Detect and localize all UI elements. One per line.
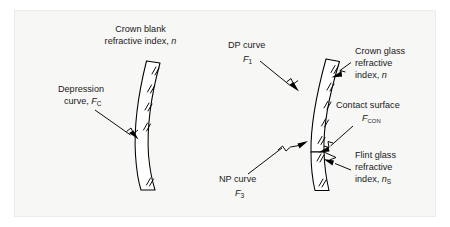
np-curve-leader-zigzag xyxy=(278,146,291,151)
depression-curve-label-line1: Depression xyxy=(58,84,104,94)
contact-surface-edge-detail xyxy=(324,152,336,160)
contact-surface-label-symbol: FCON xyxy=(362,113,381,124)
contact-surface-subscript: CON xyxy=(368,118,381,124)
contact-surface-leader xyxy=(331,126,354,146)
flint-glass-leader xyxy=(335,164,351,171)
np-curve-subscript: 3 xyxy=(241,192,245,199)
flint-glass-label-line2: refractive xyxy=(355,162,392,172)
depression-curve-subscript: C xyxy=(97,100,102,107)
dp-curve-arrowhead xyxy=(289,82,299,92)
crown-glass-leader xyxy=(340,63,351,71)
flint-glass-label-line3: index, nS xyxy=(355,174,392,185)
dp-curve-leader xyxy=(260,61,290,85)
crown-blank-label-line1: Crown blank xyxy=(115,24,166,34)
dp-curve-label-symbol: F1 xyxy=(243,54,253,65)
crown-blank-label-line2: refractive index, n xyxy=(105,36,177,46)
np-curve-label-symbol: F3 xyxy=(235,188,245,199)
dp-curve-subscript: 1 xyxy=(249,58,253,65)
crown-blank-group: Crown blank refractive index, n Depressi… xyxy=(58,24,176,190)
crown-glass-index-symbol: n xyxy=(382,70,387,80)
crown-glass-label-line3: index, n xyxy=(355,70,387,80)
crown-glass-label-line3-prefix: index, xyxy=(355,70,382,80)
contact-surface-label-line1: Contact surface xyxy=(336,100,400,110)
np-curve-leader-tail xyxy=(291,146,300,148)
crown-glass-label-line1: Crown glass xyxy=(355,46,405,56)
dp-curve-label-line1: DP curve xyxy=(228,40,265,50)
crown-blank-label-line2-prefix: refractive index, xyxy=(105,36,172,46)
depression-curve-label-line2: curve, FC xyxy=(64,96,102,107)
figure-root: Crown blank refractive index, n Depressi… xyxy=(0,0,450,227)
flint-glass-label-line1: Flint glass xyxy=(355,150,396,160)
crown-blank-label-index-symbol: n xyxy=(171,36,176,46)
cemented-doublet-group: DP curve F1 Crown glass refractive index… xyxy=(219,40,405,199)
lens-diagram: Crown blank refractive index, n Depressi… xyxy=(0,0,450,227)
np-curve-arrowhead xyxy=(298,141,309,149)
depression-curve-label-prefix: curve, xyxy=(64,96,91,106)
flint-glass-label-line3-prefix: index, xyxy=(355,174,382,184)
np-curve-label-line1: NP curve xyxy=(219,174,256,184)
np-curve-leader xyxy=(248,148,282,174)
crown-glass-label-line2: refractive xyxy=(355,58,392,68)
crown-blank-shape xyxy=(135,61,160,190)
flint-glass-index-subscript: S xyxy=(387,178,392,185)
depression-curve-leader xyxy=(95,110,131,135)
